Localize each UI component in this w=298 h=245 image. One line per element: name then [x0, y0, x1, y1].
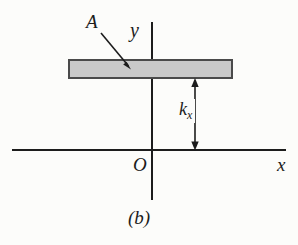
x-axis-label: x: [277, 155, 285, 174]
figure-panel-b: A y x O kx (b): [0, 0, 298, 245]
kx-base: k: [179, 99, 187, 119]
kx-arrowhead-up-icon: [191, 78, 198, 87]
kx-dimension-label: kx: [177, 99, 195, 123]
figure-caption: (b): [128, 208, 150, 227]
region-label-A: A: [86, 12, 98, 31]
shaded-region-A: [69, 60, 232, 78]
y-axis-label: y: [130, 20, 139, 40]
kx-subscript: x: [187, 108, 192, 122]
origin-label: O: [133, 155, 147, 174]
